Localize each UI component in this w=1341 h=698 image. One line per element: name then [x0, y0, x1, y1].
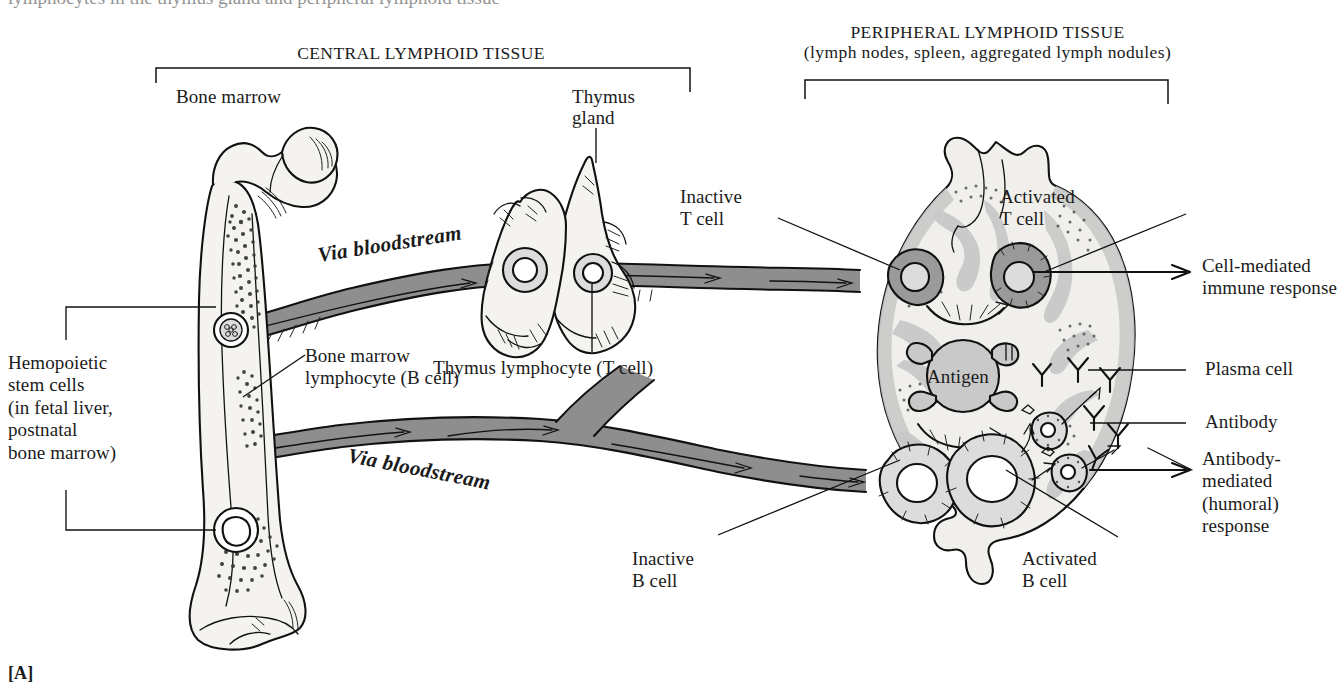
- stem-cell-upper: [214, 313, 248, 347]
- label-antibody: Antibody: [1205, 411, 1278, 433]
- heading-central-lymphoid-tissue: CENTRAL LYMPHOID TISSUE: [256, 43, 586, 64]
- label-inactive-t-cell: Inactive T cell: [680, 186, 742, 231]
- thymus-lymphocyte-exiting: [574, 254, 612, 292]
- label-cell-mediated-response: Cell-mediated immune response: [1202, 255, 1337, 300]
- label-antibody-mediated-response: Antibody- mediated (humoral) response: [1202, 448, 1281, 538]
- heading-peripheral-lymphoid-line2: (lymph nodes, spleen, aggregated lymph n…: [780, 42, 1195, 63]
- label-plasma-cell: Plasma cell: [1205, 358, 1293, 380]
- thymus-lymphocyte-entering: [503, 248, 547, 292]
- panel-marker-a: [A]: [8, 663, 33, 684]
- label-antigen: Antigen: [927, 366, 989, 388]
- stem-cell-lower: [214, 508, 258, 552]
- label-bone-marrow: Bone marrow: [176, 86, 281, 108]
- label-thymus-gland-line1: Thymus: [572, 86, 635, 108]
- label-activated-t-cell: Activated T cell: [1000, 186, 1075, 231]
- bracket-peripheral-lymphoid: [805, 80, 1168, 104]
- thymus-gland: [481, 157, 635, 357]
- label-activated-b-cell: Activated B cell: [1022, 548, 1097, 593]
- label-hemopoietic-stem-cells: Hemopoietic stem cells (in fetal liver, …: [8, 352, 116, 464]
- label-thymus-lymphocyte: Thymus lymphocyte (T cell): [433, 357, 653, 379]
- label-inactive-b-cell: Inactive B cell: [632, 548, 694, 593]
- activated-t-cell: [991, 242, 1051, 308]
- figure-canvas: lymphocytes in the thymus gland and peri…: [0, 0, 1341, 698]
- heading-peripheral-lymphoid-line1: PERIPHERAL LYMPHOID TISSUE: [800, 22, 1175, 43]
- label-thymus-gland-line2: gland: [572, 107, 615, 129]
